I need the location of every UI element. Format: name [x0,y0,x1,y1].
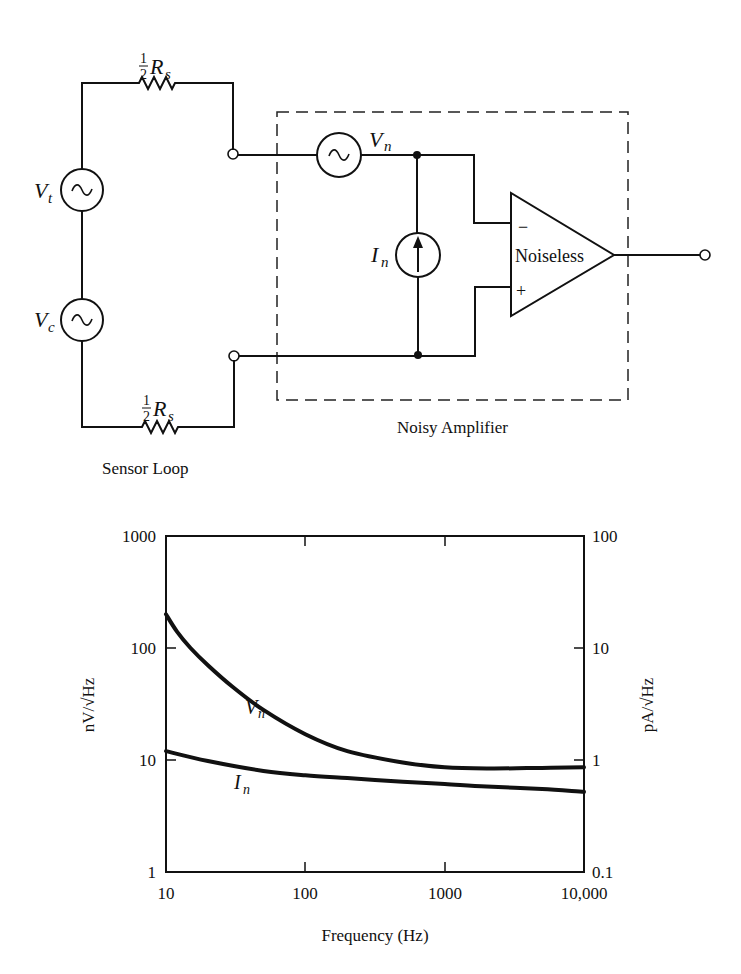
voltage-source-vc-icon [61,299,103,341]
plot-frame [166,536,584,872]
opamp-label: Noiseless [515,246,584,266]
x-tick-label: 1000 [428,884,462,903]
voltage-source-vn-icon [317,133,361,177]
amplifier-internals [238,133,710,359]
y-left-tick-label: 1000 [122,527,156,546]
noisy-amplifier-label: Noisy Amplifier [397,418,508,437]
input-terminal-bottom-icon [229,351,239,361]
resistor-bottom-sub: s [168,408,174,424]
x-tick-label: 100 [292,884,318,903]
series-vn-label-sub: n [258,706,265,721]
junction-node-bottom-icon [414,351,422,359]
wire-top-left [82,83,136,169]
resistor-top-frac-num: 1 [140,51,147,66]
circuit-diagram: 1 2 R s 1 2 R s V t V c Sensor Loop Nois… [34,51,710,478]
y-left-tick-label: 100 [131,639,157,658]
wire-bottom-right [181,360,234,427]
wire-to-noninverting [239,287,511,356]
source-in-sub: n [381,254,389,270]
input-terminal-top-icon [228,149,238,159]
wire-to-inverting [361,155,511,223]
opamp-inverting-sign: − [518,217,528,237]
x-tick-label: 10,000 [561,884,608,903]
resistor-top-frac-den: 2 [140,67,147,82]
current-source-in-icon [396,233,440,277]
source-in-symbol: I [370,242,380,267]
source-vt-sub: t [48,190,53,206]
series-in-label-sub: n [243,782,250,797]
y-axis-label-left: nV/√Hz [79,677,98,732]
sensor-loop [61,77,239,433]
resistor-top-symbol: R [149,54,164,79]
source-vn-sub: n [384,138,392,154]
wire-bottom-left [82,341,139,427]
resistor-bottom-symbol: R [152,396,167,421]
series-in-label-symbol: I [233,771,242,793]
x-tick-label: 10 [158,884,175,903]
sensor-loop-label: Sensor Loop [102,459,188,478]
y-left-tick-label: 1 [148,863,157,882]
resistor-bottom-frac-den: 2 [143,409,150,424]
y-right-tick-label: 100 [592,527,618,546]
source-vc-sub: c [48,319,55,335]
x-ticks [305,536,445,872]
output-terminal-icon [700,250,710,260]
source-vn-symbol: V [369,127,385,152]
y-ticks [166,648,584,760]
y-right-tick-label: 0.1 [592,863,613,882]
series-vn-line [166,614,584,768]
wire-top-right [178,83,233,150]
y-axis-label-right: pA/√Hz [638,677,657,732]
noise-chart: 10 100 1000 10,000 1 10 100 1000 0.1 1 1… [79,527,657,945]
resistor-top-sub: s [165,66,171,82]
x-axis-label: Frequency (Hz) [321,926,428,945]
figure: 1 2 R s 1 2 R s V t V c Sensor Loop Nois… [0,0,741,974]
y-left-tick-label: 10 [139,751,156,770]
resistor-bottom-frac-num: 1 [143,393,150,408]
voltage-source-vt-icon [61,169,103,211]
opamp-noninverting-sign: + [516,281,526,301]
y-right-tick-label: 10 [592,639,609,658]
y-right-tick-label: 1 [592,751,601,770]
